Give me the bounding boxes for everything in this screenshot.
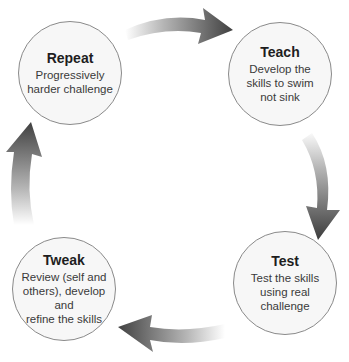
- desc-line: harder challenge: [27, 82, 113, 96]
- node-description: Develop the skills to swim not sink: [246, 62, 313, 104]
- node-description: Review (self and others), develop and re…: [13, 270, 115, 326]
- desc-line: Develop the: [246, 62, 313, 76]
- node-tweak: Tweak Review (self and others), develop …: [12, 237, 116, 341]
- node-title: Teach: [260, 44, 299, 60]
- desc-line: Review (self and: [13, 270, 115, 284]
- desc-line: Progressively: [27, 68, 113, 82]
- node-title: Repeat: [47, 50, 94, 66]
- arrow-teach-to-test: [302, 133, 340, 240]
- node-repeat: Repeat Progressively harder challenge: [18, 21, 122, 125]
- desc-line: Test the skills: [251, 271, 319, 285]
- arrow-repeat-to-teach: [125, 8, 233, 44]
- desc-line: challenge: [251, 299, 319, 313]
- node-description: Test the skills using real challenge: [251, 271, 319, 313]
- desc-line: refine the skills: [13, 312, 115, 326]
- node-description: Progressively harder challenge: [27, 68, 113, 96]
- node-title: Tweak: [43, 252, 85, 268]
- desc-line: using real: [251, 285, 319, 299]
- arrow-test-to-tweak: [118, 315, 225, 352]
- node-test: Test Test the skills using real challeng…: [233, 231, 337, 335]
- desc-line: skills to swim: [246, 76, 313, 90]
- node-teach: Teach Develop the skills to swim not sin…: [228, 22, 332, 126]
- desc-line: not sink: [246, 90, 313, 104]
- node-title: Test: [271, 253, 299, 269]
- desc-line: others), develop and: [13, 284, 115, 312]
- arrow-tweak-to-repeat: [6, 122, 42, 225]
